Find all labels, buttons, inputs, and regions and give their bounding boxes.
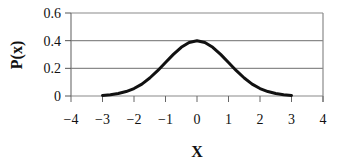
y-axis-title: P(x): [8, 41, 26, 69]
gridlines: [71, 13, 323, 96]
y-tick-label: 0.4: [44, 34, 62, 49]
y-tick-label: 0: [54, 89, 61, 104]
x-tick-label: 1: [225, 112, 232, 127]
y-tick-label: 0.2: [44, 61, 62, 76]
y-tick-label: 0.6: [44, 6, 62, 21]
normal-distribution-chart: −4−3−2−101234 00.20.40.6 X P(x): [0, 0, 346, 165]
x-tick-label: −1: [158, 112, 173, 127]
x-tick-label: 4: [320, 112, 327, 127]
x-tick-label: −2: [127, 112, 142, 127]
x-axis-title: X: [191, 143, 203, 160]
y-axis-ticks: 00.20.40.6: [44, 6, 72, 104]
axes: [71, 13, 323, 102]
x-tick-label: 3: [288, 112, 295, 127]
x-tick-label: −4: [64, 112, 79, 127]
x-axis-ticks: −4−3−2−101234: [64, 96, 327, 127]
x-tick-label: 2: [257, 112, 264, 127]
x-tick-label: 0: [194, 112, 201, 127]
x-tick-label: −3: [95, 112, 110, 127]
